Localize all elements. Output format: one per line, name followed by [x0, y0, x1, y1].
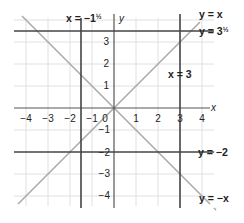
x-axis-label: x [210, 102, 217, 113]
x-tick-labels: −4 −3 −2 −1 1 2 3 4 [20, 113, 205, 124]
label-x-eq-3: x = 3 [168, 68, 192, 80]
origin-label: 0 [102, 113, 108, 124]
y-tick: 3 [103, 36, 109, 47]
y-tick: −2 [99, 147, 111, 158]
label-x-eq-neg-1-half: x = −1½ [66, 12, 102, 24]
x-tick: 1 [133, 113, 139, 124]
x-tick: −4 [20, 113, 32, 124]
x-tick: 2 [155, 113, 161, 124]
x-tick: −2 [64, 113, 76, 124]
label-y-eq-3-half: y = 3½ [199, 25, 229, 37]
line-y-eq-neg-x-tail [214, 208, 216, 210]
y-tick: 2 [103, 58, 109, 69]
label-y-eq-neg-2: y = −2 [198, 146, 228, 158]
x-tick: 4 [199, 113, 205, 124]
y-tick: −4 [99, 190, 111, 201]
y-axis-label: y [118, 13, 125, 24]
x-tick: −1 [86, 113, 98, 124]
x-tick: 3 [177, 113, 183, 124]
x-tick: −3 [42, 113, 54, 124]
label-y-eq-x: y = x [199, 8, 223, 20]
y-tick: 1 [103, 80, 109, 91]
y-tick: −3 [99, 168, 111, 179]
line-y-eq-neg-x [22, 16, 210, 204]
y-tick: −1 [99, 124, 111, 135]
coordinate-graph: −4 −3 −2 −1 1 2 3 4 0 1 2 3 −1 −2 −3 −4 … [0, 0, 244, 223]
label-y-eq-neg-x: y = −x [199, 192, 229, 204]
